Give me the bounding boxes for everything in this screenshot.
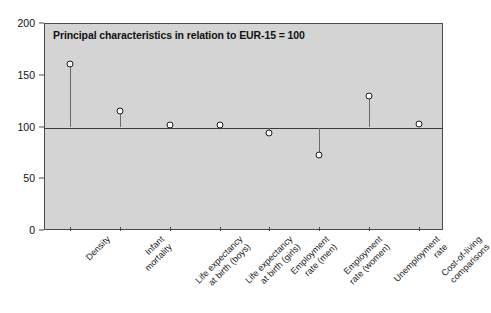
y-tick-label: 0 [29, 224, 35, 236]
x-axis-label: Employmentrate (men) [289, 234, 339, 284]
x-tick-mark [170, 227, 171, 231]
y-tick-label: 50 [23, 172, 35, 184]
data-point-marker [66, 61, 73, 68]
x-tick-mark [220, 227, 221, 231]
data-point-marker [366, 93, 373, 100]
x-axis-label: Unemploymentrate [392, 234, 450, 292]
x-tick-mark [319, 227, 320, 231]
x-tick-mark [120, 227, 121, 231]
data-point-marker [266, 129, 273, 136]
x-axis-label: Life expectancyat birth (boys) [193, 234, 252, 293]
x-tick-mark [70, 227, 71, 231]
x-tick-mark [419, 227, 420, 231]
y-tick-label: 100 [17, 121, 35, 133]
x-tick-mark [369, 227, 370, 231]
data-point-marker [116, 107, 123, 114]
x-axis-label: Density [84, 234, 113, 263]
plot-area: Principal characteristics in relation to… [44, 23, 443, 230]
x-axis-label: Cost-of-livingcomparisons [439, 234, 491, 286]
baseline-100 [45, 128, 442, 129]
x-axis-label-line: Density [84, 234, 113, 263]
data-point-marker [216, 122, 223, 129]
data-stem [70, 64, 71, 127]
y-tick-label: 200 [17, 17, 35, 29]
data-stem [369, 96, 370, 127]
data-point-marker [416, 121, 423, 128]
chart-title: Principal characteristics in relation to… [53, 29, 305, 41]
x-axis-label: Infantmortality [135, 234, 174, 273]
data-point-marker [166, 122, 173, 129]
data-point-marker [316, 152, 323, 159]
y-tick-label: 150 [17, 69, 35, 81]
x-axis-label: Employmentrate (women) [340, 234, 392, 286]
x-tick-mark [269, 227, 270, 231]
